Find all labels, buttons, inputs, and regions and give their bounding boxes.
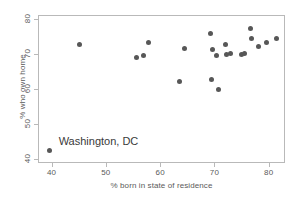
data-point <box>210 47 215 52</box>
x-tick-mark <box>160 163 161 167</box>
data-point <box>209 77 214 82</box>
data-point <box>141 53 146 58</box>
data-point <box>214 53 219 58</box>
y-tick-mark <box>34 124 38 125</box>
x-tick-label: 50 <box>91 168 121 177</box>
x-axis-label: % born in state of residence <box>38 181 285 190</box>
data-point <box>248 26 253 31</box>
data-point <box>256 44 261 49</box>
data-point <box>274 36 279 41</box>
data-point <box>182 46 187 51</box>
data-point <box>47 148 52 153</box>
x-tick-label: 80 <box>254 168 284 177</box>
data-point <box>242 51 247 56</box>
x-tick-label: 40 <box>37 168 67 177</box>
y-tick-mark <box>34 19 38 20</box>
point-annotation-label: Washington, DC <box>59 135 139 147</box>
y-tick-mark <box>34 159 38 160</box>
x-tick-label: 60 <box>145 168 175 177</box>
x-tick-mark <box>52 163 53 167</box>
data-point <box>216 87 221 92</box>
data-point <box>264 40 269 45</box>
x-tick-mark <box>106 163 107 167</box>
data-point <box>208 31 213 36</box>
data-point <box>134 55 139 60</box>
data-point <box>223 42 228 47</box>
data-point <box>177 79 182 84</box>
y-tick-mark <box>34 89 38 90</box>
data-point <box>146 40 151 45</box>
x-tick-mark <box>214 163 215 167</box>
x-tick-mark <box>269 163 270 167</box>
y-tick-mark <box>34 54 38 55</box>
x-tick-label: 70 <box>199 168 229 177</box>
data-point <box>228 51 233 56</box>
data-point <box>249 36 254 41</box>
y-axis-label: % who own home <box>18 27 27 147</box>
y-tick-label: 40 <box>23 152 32 166</box>
scatter-plot-figure: Washington, DC 4050607080 4050607080 % b… <box>0 0 304 203</box>
y-tick-label: 80 <box>23 11 32 25</box>
data-point <box>77 42 82 47</box>
plot-area: Washington, DC <box>38 15 285 163</box>
